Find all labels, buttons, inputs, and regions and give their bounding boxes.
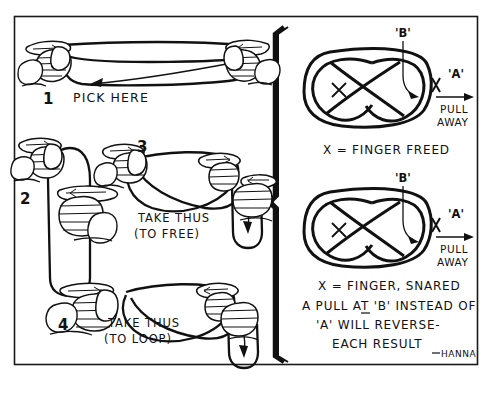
- knot-1-label-b: 'B': [395, 26, 411, 40]
- step-2-upper-hand: [11, 138, 64, 182]
- step-2-number: 2: [20, 190, 30, 208]
- step-2-lower-hand: [58, 186, 118, 243]
- knot-2-x-mark: [332, 223, 346, 237]
- step-1-number: 1: [43, 90, 53, 108]
- knot-2-note-line2: 'A' WILL REVERSE-: [316, 318, 440, 332]
- knot-1-pull-line1: PULL: [440, 103, 468, 115]
- step-3-caption-line2: (TO FREE): [134, 227, 200, 241]
- knot-2-label-b: 'B': [395, 171, 411, 185]
- step-4-caption-line2: (TO LOOP): [104, 332, 172, 346]
- knot-2-note-line3: EACH RESULT: [332, 337, 422, 351]
- step-3-right-hand: [199, 153, 277, 221]
- step-4-illustration: 4 TAKE THUS (TO LOOP): [46, 283, 258, 368]
- knot-2-pull-line2: AWAY: [437, 256, 469, 268]
- step-1-right-hand: [224, 40, 280, 85]
- step-1-left-hand: [18, 41, 71, 86]
- knot-diagram-snared: 'B' 'A' PULL AWAY X = FINGER, SNARED A P…: [302, 171, 476, 351]
- step-4-number: 4: [58, 316, 68, 334]
- string-trick-illustration: 1 PICK HERE: [0, 0, 493, 395]
- step-3-illustration: 3 TAKE THUS (TO FREE): [94, 138, 276, 248]
- step-3-number: 3: [137, 138, 147, 156]
- knot-1-result: X = FINGER FREED: [323, 143, 450, 157]
- knot-2-label-a: 'A': [448, 207, 464, 221]
- knot-diagram-freed: 'B' 'A' PULL AWAY X = FINGER FREED: [304, 26, 474, 157]
- step-1-caption: PICK HERE: [73, 90, 149, 105]
- step-4-right-hand: [197, 283, 258, 340]
- knot-2-result: X = FINGER, SNARED: [318, 279, 461, 293]
- knot-1-pull-line2: AWAY: [437, 116, 469, 128]
- diagram-page: 1 PICK HERE: [0, 0, 493, 395]
- signature-text: HANNA: [441, 349, 476, 359]
- knot-1-x-mark: [332, 83, 346, 97]
- step-1-illustration: 1 PICK HERE: [18, 40, 280, 108]
- artist-signature: HANNA: [432, 349, 476, 359]
- step-2-illustration: 2: [11, 138, 118, 296]
- step-3-caption-line1: TAKE THUS: [137, 211, 210, 225]
- step-4-caption-line1: TAKE THUS: [107, 316, 180, 330]
- knot-2-note-line1: A PULL AT 'B' INSTEAD OF: [302, 299, 476, 313]
- knot-1-label-a: 'A': [448, 67, 464, 81]
- knot-2-pull-line1: PULL: [440, 243, 468, 255]
